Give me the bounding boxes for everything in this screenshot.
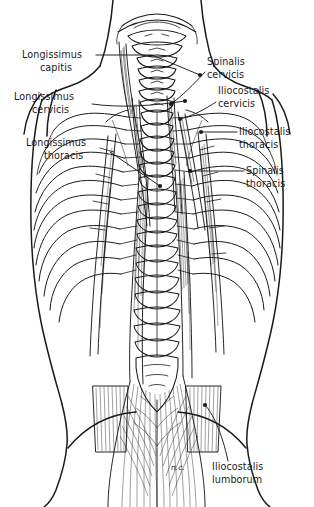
label-longissimus-thoracis-line2: thoracis <box>44 150 83 161</box>
transverse-process-left-8 <box>121 212 138 214</box>
transverse-process-left-7 <box>121 198 138 200</box>
leader-dot-longissimus-cervicis <box>183 99 187 103</box>
left-rib-9 <box>39 225 120 281</box>
sacrum-detail-2 <box>146 375 168 377</box>
mastoid-left <box>117 26 122 44</box>
iliocostalis-slip-2 <box>203 172 218 176</box>
leader-spinalis-cervicis <box>171 72 205 104</box>
vertebra-c5-spinous <box>151 81 163 83</box>
label-iliocostalis-cervicis-line1: Iliocostalis <box>218 85 269 96</box>
leader-dot-spinalis-thoracis <box>188 169 192 173</box>
leader-dot-iliocostalis-thoracis <box>199 130 203 134</box>
left-rib-11 <box>50 257 120 310</box>
right-lumbar-cut-block <box>186 386 221 452</box>
right-rib-12 <box>193 273 255 322</box>
vertebra-c2-spinous <box>149 48 165 50</box>
left-costal-detail-2 <box>37 152 44 175</box>
left-waist-contour <box>44 404 67 507</box>
label-iliocostalis-lumborum-line1: Iliocostalis <box>212 461 263 472</box>
label-spinalis-cervicis-line1: Spinalis <box>207 56 245 67</box>
annotation-nc: n.c. <box>171 463 185 472</box>
spinalis-thoracis-band-medial <box>175 170 183 376</box>
occiput-group <box>117 14 198 44</box>
anatomical-figure: Longissimus capitis Longissimus cervicis… <box>0 0 314 507</box>
label-longissimus-capitis-line2: capitis <box>40 62 72 73</box>
label-iliocostalis-lumborum-line2: lumborum <box>212 474 262 485</box>
transverse-process-right-7 <box>176 198 193 200</box>
left-lumbar-cut-block <box>93 386 128 452</box>
label-iliocostalis-lumborum[interactable]: Iliocostalis lumborum <box>203 403 263 485</box>
right-rib-8 <box>193 210 278 265</box>
transverse-process-left-2 <box>126 130 141 131</box>
label-iliocostalis-thoracis-line2: thoracis <box>239 139 278 150</box>
iliocostalis-thoracis-muscle <box>198 132 226 354</box>
vertebra-c1-detail <box>145 34 169 36</box>
longissimus-thoracis-band-lateral <box>130 176 139 382</box>
left-lumbar-cut-hatching <box>96 386 124 452</box>
left-rib-12 <box>59 273 121 322</box>
leader-dot-iliocostalis-lumborum <box>203 403 207 407</box>
left-iliocostalis-slip-4 <box>90 228 105 230</box>
left-upper-cut-edge <box>106 110 128 122</box>
vertebra-c1 <box>128 30 186 45</box>
label-longissimus-capitis-line1: Longissimus <box>22 49 82 60</box>
label-iliocostalis-thoracis-line1: Iliocostalis <box>239 126 290 137</box>
mastoid-right <box>192 26 197 44</box>
label-spinalis-cervicis-line2: cervicis <box>207 69 244 80</box>
neck-left-contour <box>100 0 113 66</box>
spinalis-thoracis-fibers <box>177 178 190 350</box>
label-spinalis-thoracis-line1: Spinalis <box>246 165 284 176</box>
left-iliocostalis-slip-2 <box>96 174 111 178</box>
leader-longissimus-capitis <box>96 55 200 75</box>
right-waist-contour <box>247 404 270 507</box>
erector-spinae-aponeurosis <box>108 376 205 507</box>
label-longissimus-cervicis-line2: cervicis <box>32 104 69 115</box>
erector-spinae-diagram: Longissimus capitis Longissimus cervicis… <box>0 0 314 507</box>
label-iliocostalis-cervicis[interactable]: Iliocostalis cervicis <box>178 85 269 121</box>
transverse-process-right-2 <box>173 130 188 131</box>
vertebra-c6-spinous <box>151 92 163 94</box>
transverse-process-right-4 <box>174 157 190 158</box>
transverse-process-left-12 <box>121 270 136 274</box>
cervical-spine-group <box>128 30 186 112</box>
label-longissimus-cervicis-line1: Longissimus <box>14 91 74 102</box>
transverse-process-right-11 <box>178 255 194 259</box>
right-rib-11 <box>194 257 264 310</box>
leader-dot-iliocostalis-cervicis <box>178 117 182 121</box>
iliocostalis-slip-3 <box>206 199 221 202</box>
sacrum-detail-1 <box>144 365 170 367</box>
leader-dot-longissimus-thoracis <box>158 184 162 188</box>
sacrum-detail-3 <box>149 385 165 387</box>
transverse-process-left-6 <box>122 184 139 186</box>
transverse-process-left-9 <box>120 226 137 229</box>
left-iliocostalis-slip-3 <box>93 201 108 204</box>
transverse-process-right-10 <box>177 240 194 244</box>
vertebra-c4-spinous <box>151 70 163 72</box>
label-iliocostalis-cervicis-line2: cervicis <box>218 98 255 109</box>
label-longissimus-thoracis-line1: Longissimus <box>26 137 86 148</box>
label-spinalis-thoracis-line2: thoracis <box>246 178 285 189</box>
right-rib-7 <box>193 195 280 248</box>
leader-dot-spinalis-cervicis <box>169 102 173 106</box>
left-iliac-crest <box>68 412 136 448</box>
right-rib-9 <box>194 225 275 281</box>
